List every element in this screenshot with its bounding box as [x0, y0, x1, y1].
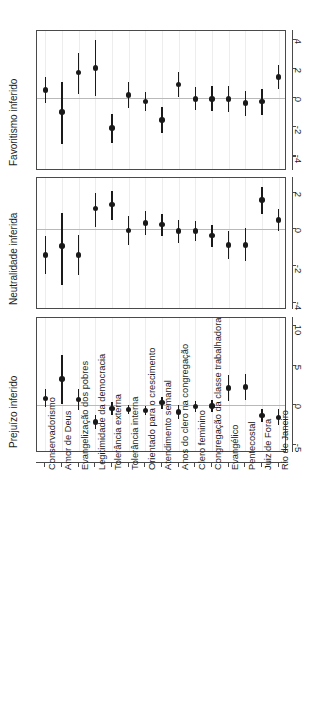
category-tick	[161, 462, 162, 467]
estimate-point	[259, 413, 264, 418]
axis-spine	[292, 317, 293, 452]
axis-tick-label: 0	[293, 404, 303, 409]
estimate-point	[76, 252, 81, 257]
estimate-point	[93, 65, 98, 70]
category-tick	[61, 462, 62, 467]
category-label: Pentecostal	[248, 421, 257, 470]
category-label: Tolerância externa	[114, 394, 123, 470]
category-label: Congregação da classe trabalhadora	[214, 318, 223, 470]
estimate-point	[43, 252, 48, 257]
estimate-point	[176, 82, 181, 87]
gridline	[195, 178, 196, 308]
estimate-point	[126, 228, 131, 233]
estimate-point	[259, 99, 264, 104]
estimate-point	[59, 376, 64, 381]
panel-title: Prejuízo inferido	[9, 376, 19, 448]
category-label: Evangélico	[231, 425, 240, 470]
gridline	[179, 31, 180, 169]
panel-title: Favoritismo inferido	[9, 79, 19, 166]
category-tick	[178, 462, 179, 467]
gridline	[112, 31, 113, 169]
axis-tick-label: -2	[293, 265, 303, 273]
axis-tick-label: 0	[293, 97, 303, 102]
category-label: Evangelização dos pobres	[81, 361, 90, 470]
category-label: Clero feminino	[198, 410, 207, 470]
estimate-point	[159, 222, 164, 227]
category-label: Legitimidade da democracia	[98, 354, 107, 470]
category-label: Juiz de Fora	[264, 419, 273, 470]
estimate-point	[226, 385, 231, 390]
category-tick	[94, 462, 95, 467]
category-label: Tolerância interna	[131, 397, 140, 470]
estimate-point	[193, 404, 198, 409]
estimate-point	[259, 197, 264, 202]
category-tick	[228, 462, 229, 467]
axis-tick-label: -4	[293, 301, 303, 309]
category-label: Amor de Deus	[64, 411, 73, 470]
estimate-point	[193, 96, 198, 101]
estimate-point	[59, 109, 64, 114]
panel-1	[36, 30, 286, 170]
axis-tick-label: 10	[293, 325, 303, 336]
gridline	[162, 178, 163, 308]
axis-tick-label: 2	[293, 191, 303, 196]
value-axis-panel-2: 20-2-4	[292, 177, 321, 309]
estimate-point	[59, 243, 64, 248]
estimate-point	[109, 125, 114, 130]
category-label: Conservadorismo	[48, 397, 57, 470]
axis-tick-label: 4	[293, 39, 303, 44]
axis-tick-label: 5	[293, 364, 303, 369]
estimate-point	[276, 74, 281, 79]
confidence-interval-bar	[61, 213, 62, 285]
estimate-point	[209, 96, 214, 101]
estimate-point	[176, 228, 181, 233]
category-tick	[194, 462, 195, 467]
category-tick	[244, 462, 245, 467]
estimate-point	[276, 217, 281, 222]
category-label: Orientado para o crescimento	[148, 348, 157, 470]
gridline	[279, 31, 280, 169]
gridline	[79, 31, 80, 169]
value-axis-panel-3: 1050-5	[292, 317, 321, 452]
gridline	[145, 178, 146, 308]
axis-tick-label: 2	[293, 68, 303, 73]
category-tick	[111, 462, 112, 467]
estimate-point	[243, 384, 248, 389]
estimate-point	[126, 92, 131, 97]
axis-tick-label: -4	[293, 155, 303, 163]
estimate-point	[243, 242, 248, 247]
panel-title: Neutralidade inferida	[9, 213, 19, 305]
estimate-point	[109, 202, 114, 207]
axis-tick-label: -5	[293, 444, 303, 452]
estimate-point	[226, 242, 231, 247]
value-axis-panel-1: 420-2-4	[292, 30, 321, 170]
axis-tick-label: 0	[293, 228, 303, 233]
estimate-point	[209, 233, 214, 238]
category-tick	[78, 462, 79, 467]
estimate-point	[93, 206, 98, 211]
estimate-point	[193, 228, 198, 233]
category-label: Anos do clero na congregação	[181, 344, 190, 470]
estimate-point	[243, 100, 248, 105]
estimate-point	[76, 70, 81, 75]
category-label: Rio de Janeiro	[281, 410, 290, 470]
estimate-point	[43, 87, 48, 92]
estimate-point	[159, 117, 164, 122]
gridline	[279, 178, 280, 308]
zero-reference-line	[37, 98, 285, 99]
category-tick	[144, 462, 145, 467]
coefficient-plot-figure: 420-2-4Favoritismo inferido20-2-4Neutral…	[0, 0, 321, 715]
category-tick	[261, 462, 262, 467]
estimate-point	[143, 99, 148, 104]
gridline	[162, 31, 163, 169]
panel-2	[36, 177, 286, 309]
category-tick	[211, 462, 212, 467]
axis-tick-label: -2	[293, 126, 303, 134]
estimate-point	[226, 96, 231, 101]
category-tick	[128, 462, 129, 467]
category-label: Atendimento semanal	[164, 380, 173, 470]
estimate-point	[143, 220, 148, 225]
category-tick	[44, 462, 45, 467]
category-tick	[278, 462, 279, 467]
